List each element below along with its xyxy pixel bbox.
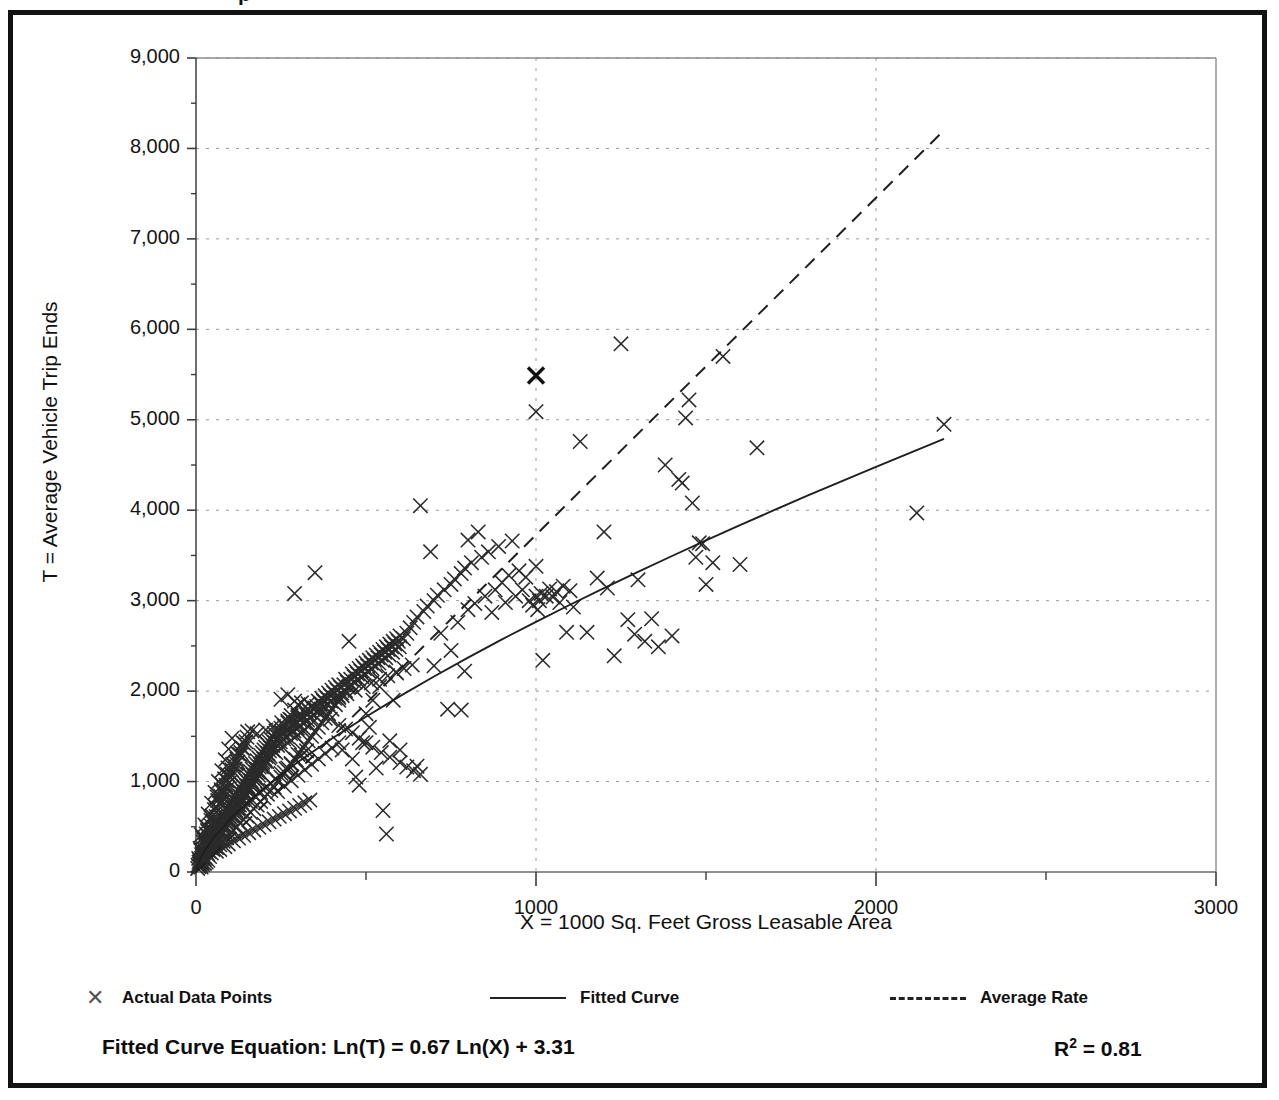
y-tick-label: 0 <box>40 859 180 882</box>
y-tick-label: 1,000 <box>40 769 180 792</box>
y-tick-label: 8,000 <box>40 135 180 158</box>
clipped-title: p <box>0 0 1279 9</box>
legend-label-fitted-curve: Fitted Curve <box>580 988 679 1008</box>
equation-row: Fitted Curve Equation: Ln(T) = 0.67 Ln(X… <box>20 1035 1240 1075</box>
legend-item-average-rate: Average Rate <box>890 982 1088 1014</box>
y-axis-title: T = Average Vehicle Trip Ends <box>38 232 62 652</box>
y-tick-label: 2,000 <box>40 678 180 701</box>
cross-marker-icon: ✕ <box>82 987 108 1009</box>
y-tick-label: 9,000 <box>40 45 180 68</box>
legend-item-actual-data-points: ✕ Actual Data Points <box>82 982 272 1014</box>
r-squared-prefix: R <box>1054 1037 1069 1060</box>
legend-item-fitted-curve: Fitted Curve <box>490 982 679 1014</box>
clipped-title-text: p <box>238 0 251 6</box>
fitted-curve-equation: Fitted Curve Equation: Ln(T) = 0.67 Ln(X… <box>102 1035 575 1059</box>
legend-label-actual-data-points: Actual Data Points <box>122 988 272 1008</box>
chart-page: p 01,0002,0003,0004,0005,0006,0007,0008,… <box>0 0 1279 1100</box>
r-squared-number: = 0.81 <box>1077 1037 1142 1060</box>
x-axis-title: X = 1000 Sq. Feet Gross Leasable Area <box>196 910 1216 934</box>
r-squared-value: R2 = 0.81 <box>1054 1035 1142 1061</box>
solid-line-icon <box>490 997 566 999</box>
r-squared-exponent: 2 <box>1069 1035 1077 1051</box>
chart-legend: ✕ Actual Data Points Fitted Curve Averag… <box>20 982 1240 1022</box>
dashed-line-icon <box>890 997 966 1000</box>
legend-label-average-rate: Average Rate <box>980 988 1088 1008</box>
